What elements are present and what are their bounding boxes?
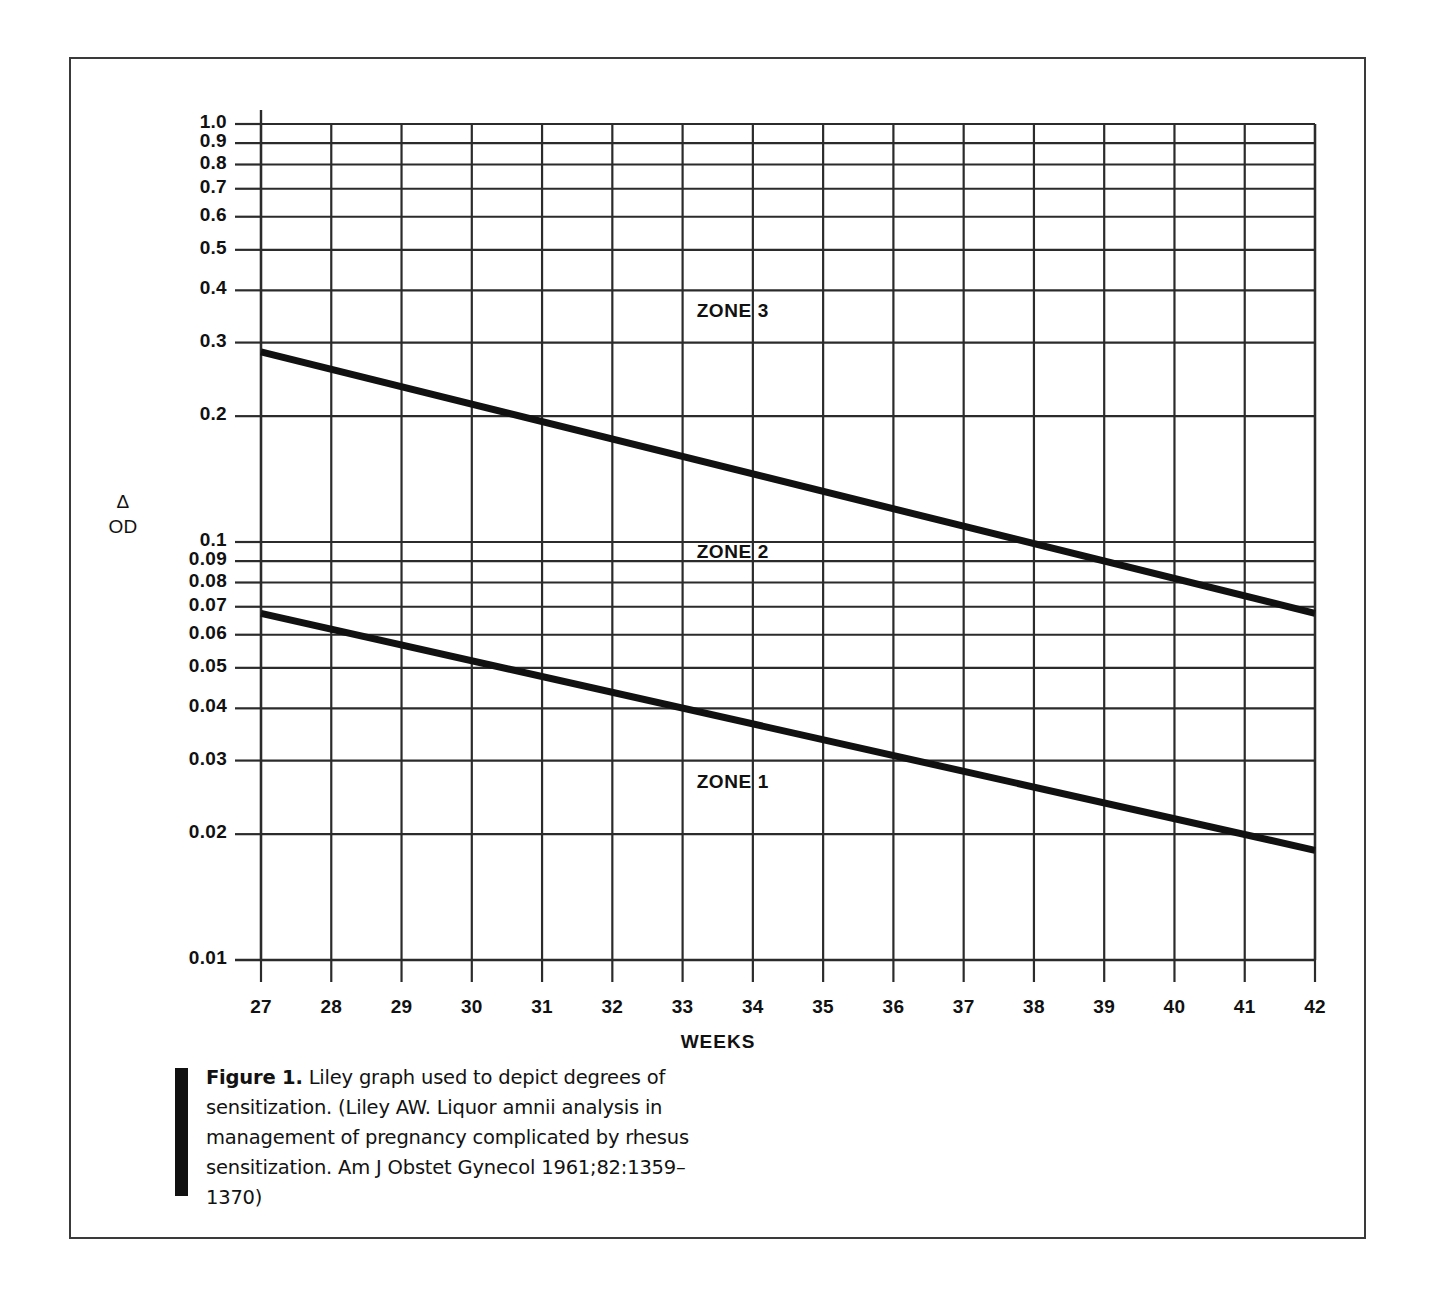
figure-caption: Figure 1. Liley graph used to depict deg… — [175, 1063, 703, 1213]
y-tick-label: 0.01 — [141, 947, 227, 969]
x-tick-label: 34 — [723, 996, 783, 1018]
y-tick-label: 0.9 — [141, 130, 227, 152]
x-tick-label: 40 — [1144, 996, 1204, 1018]
y-tick-label: 0.03 — [141, 748, 227, 770]
figure-frame — [69, 57, 1366, 1239]
x-tick-label: 27 — [231, 996, 291, 1018]
y-tick-label: 0.04 — [141, 695, 227, 717]
x-tick-label: 35 — [793, 996, 853, 1018]
caption-figure-number: Figure 1. — [206, 1066, 303, 1089]
y-tick-label: 0.5 — [141, 237, 227, 259]
y-tick-label: 0.05 — [141, 655, 227, 677]
y-tick-label: 0.1 — [141, 529, 227, 551]
zone-1-label: ZONE 1 — [697, 771, 769, 793]
x-tick-label: 29 — [372, 996, 432, 1018]
y-tick-label: 0.3 — [141, 330, 227, 352]
y-tick-label: 0.7 — [141, 176, 227, 198]
x-tick-label: 39 — [1074, 996, 1134, 1018]
y-tick-label: 0.8 — [141, 152, 227, 174]
y-axis-title-delta: Δ — [88, 489, 158, 514]
y-tick-label: 0.02 — [141, 821, 227, 843]
zone-3-label: ZONE 3 — [697, 300, 769, 322]
x-tick-label: 37 — [934, 996, 994, 1018]
x-tick-label: 36 — [863, 996, 923, 1018]
x-axis-title: WEEKS — [0, 1031, 1436, 1053]
y-tick-label: 0.07 — [141, 594, 227, 616]
y-tick-label: 0.08 — [141, 570, 227, 592]
x-tick-label: 32 — [582, 996, 642, 1018]
y-tick-label: 0.6 — [141, 204, 227, 226]
y-tick-label: 0.06 — [141, 622, 227, 644]
x-tick-label: 42 — [1285, 996, 1345, 1018]
y-tick-label: 0.4 — [141, 277, 227, 299]
x-tick-label: 31 — [512, 996, 572, 1018]
x-tick-label: 30 — [442, 996, 502, 1018]
x-tick-label: 28 — [301, 996, 361, 1018]
y-tick-label: 0.2 — [141, 403, 227, 425]
y-tick-label: 0.09 — [141, 548, 227, 570]
zone-2-label: ZONE 2 — [697, 541, 769, 563]
caption-accent-bar — [175, 1068, 188, 1196]
x-tick-label: 38 — [1004, 996, 1064, 1018]
x-tick-label: 33 — [653, 996, 713, 1018]
y-tick-label: 1.0 — [141, 111, 227, 133]
x-tick-label: 41 — [1215, 996, 1275, 1018]
